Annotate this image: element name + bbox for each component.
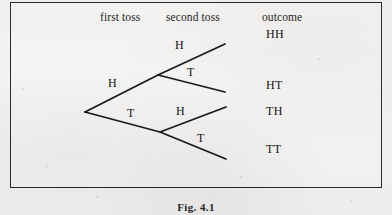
branch-label-first-toss-heads: H [108,76,117,91]
branch-root-to-t [85,112,160,132]
branch-t-to-th [160,107,226,132]
column-header-second-toss: second toss [166,11,220,23]
outcome-label-hh: HH [266,27,284,42]
figure-caption: Fig. 4.1 [0,201,392,215]
probability-tree-diagram [10,2,382,188]
branch-t-to-tt [160,132,226,159]
column-header-first-toss: first toss [100,11,140,23]
outcome-label-th: TH [266,104,283,119]
branch-label-second-toss-tails-upper: T [187,65,194,80]
scan-speck [22,88,24,90]
figure-page: first toss second toss outcome H T H T H… [0,0,392,215]
scan-speck [350,200,352,202]
branch-label-second-toss-tails-lower: T [197,131,204,146]
scan-speck [46,165,48,167]
branch-label-second-toss-heads-lower: H [176,104,185,119]
branch-label-first-toss-tails: T [127,106,134,121]
outcome-label-ht: HT [266,78,283,93]
scan-speck [240,176,242,178]
outcome-label-tt: TT [266,142,281,157]
branch-label-second-toss-heads-upper: H [175,38,184,53]
scan-speck [96,196,98,198]
scan-speck [318,58,320,60]
branch-root-to-h [85,75,158,112]
column-header-outcome: outcome [262,11,302,23]
